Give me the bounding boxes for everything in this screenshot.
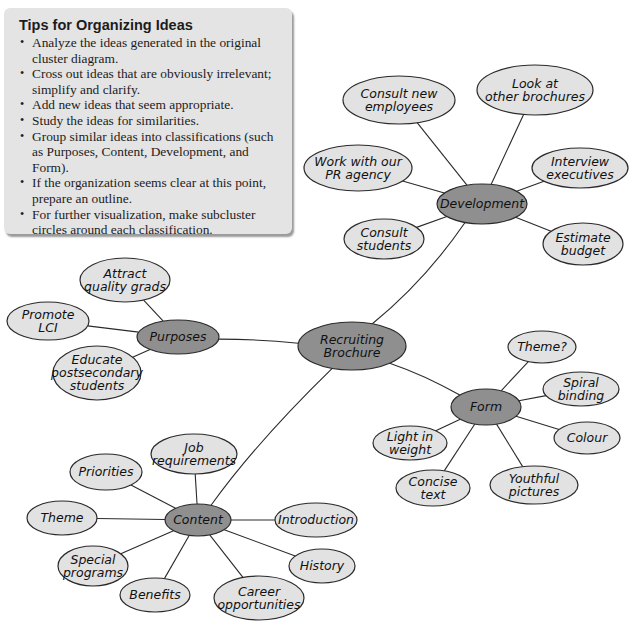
connector-form-leaf [501,362,528,391]
node-label: Form [470,399,502,414]
node-spiral-binding: Spiralbinding [543,372,619,406]
connector-form-leaf [436,419,460,431]
connector-development-leaf [516,217,551,231]
node-consult-new-employees: Consult newemployees [343,76,455,124]
node-label: executives [546,167,614,182]
node-label: History [300,558,345,573]
node-history: History [289,549,355,583]
node-job-requirements: Jobrequirements [151,434,237,474]
node-benefits: Benefits [120,578,190,612]
node-label: other brochures [485,89,586,104]
node-label: text [421,487,447,502]
node-label: Content [173,512,224,527]
node-label: Introduction [278,512,354,527]
node-concise-text: Concisetext [396,470,470,506]
node-hub-purposes: Purposes [137,320,219,354]
node-label: Brochure [324,345,381,360]
node-label: students [70,378,125,393]
connector-purposes-leaf [88,326,139,332]
node-theme: Theme? [508,331,576,363]
node-label: weight [389,442,432,457]
connector-content-leaf [164,535,189,578]
node-label: LCI [38,320,58,335]
node-look-at-other-brochures: Look atother brochures [477,65,593,115]
connector-content-leaf [121,531,174,554]
node-label: Purposes [150,329,207,344]
node-work-with-our-pr-agency: Work with ourPR agency [304,145,412,191]
node-label: Theme [40,510,83,525]
node-label: programs [62,565,124,580]
cluster-diagram: RecruitingBrochureDevelopmentConsult new… [0,0,631,625]
connector-content-leaf [224,530,295,556]
node-label: Theme? [517,339,567,354]
node-promote-lci: PromoteLCI [7,302,89,340]
connector-center-form [390,363,460,395]
node-label: students [357,238,412,253]
node-career-opportunities: Careeropportunities [214,576,304,620]
node-label: Priorities [79,464,134,479]
connector-development-leaf [491,115,523,185]
connector-form-leaf [516,416,559,429]
connector-form-leaf [444,424,475,471]
connector-development-leaf [403,181,445,193]
node-label: quality grads [84,279,166,294]
connector-development-leaf [417,123,467,185]
connector-content-leaf [97,519,165,520]
connector-center-content [211,368,332,505]
node-consult-students: Consultstudents [344,219,424,259]
node-hub-content: Content [165,504,231,536]
node-theme: Theme [27,501,97,535]
node-label: Development [440,196,525,211]
node-light-in-weight: Light inweight [373,426,447,460]
node-label: binding [558,388,605,403]
connector-content-leaf [195,474,197,504]
connector-form-leaf [519,396,546,401]
node-introduction: Introduction [275,503,357,537]
node-label: budget [561,243,606,258]
node-attract-quality-grads: Attractquality grads [80,258,170,302]
node-interview-executives: Interviewexecutives [532,148,628,188]
connector-center-purposes [219,339,299,343]
node-priorities: Priorities [70,454,142,490]
node-label: Benefits [129,587,181,602]
connector-development-leaf [417,217,447,228]
connector-purposes-leaf [133,349,150,357]
node-colour: Colour [554,422,620,454]
connector-purposes-leaf [144,300,164,321]
node-recruiting-brochure: RecruitingBrochure [298,322,406,370]
node-label: Colour [567,430,608,445]
connector-form-leaf [497,424,523,466]
node-label: pictures [508,484,560,499]
node-youthful-pictures: Youthfulpictures [490,466,578,504]
node-label: requirements [152,453,237,468]
node-label: opportunities [217,597,301,612]
node-hub-form: Form [451,389,521,425]
node-special-programs: Specialprograms [58,546,128,586]
connector-content-leaf [131,485,176,508]
node-educate-postsecondary-students: Educatepostsecondarystudents [50,346,143,400]
node-estimate-budget: Estimatebudget [543,223,623,265]
node-label: PR agency [325,167,391,182]
diagram-nodes: RecruitingBrochureDevelopmentConsult new… [7,65,628,620]
node-label: employees [365,99,434,114]
connector-development-leaf [517,181,544,191]
connector-content-leaf [210,535,243,577]
node-hub-development: Development [437,184,527,224]
